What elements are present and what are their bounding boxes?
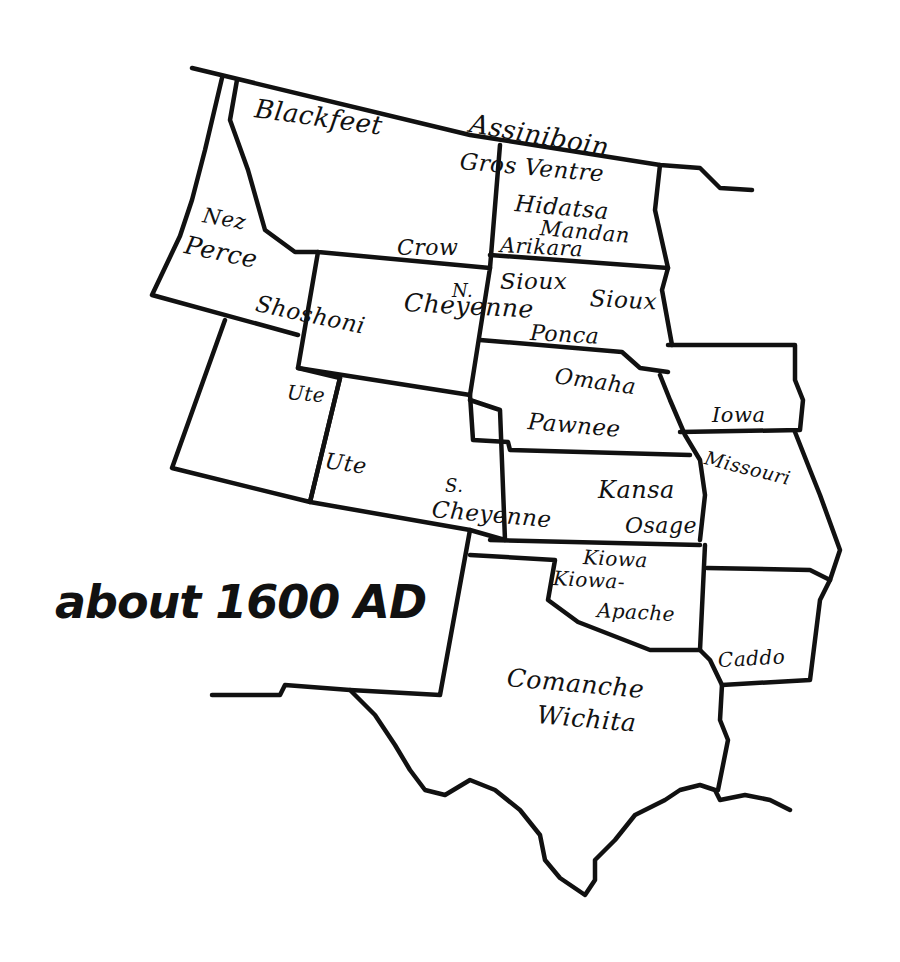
tribe-label-ponca: Ponca [529,322,599,348]
tribe-label-apache: Apache [596,600,675,624]
tribe-label-ute: Ute [286,382,326,405]
border-nd-east [655,165,672,345]
border-texas [212,685,790,895]
tribe-label-crow: Crow [397,237,458,259]
tribe-label-kiowa: Kiowa [582,547,648,570]
map-caption: about 1600 AD [55,575,426,629]
tribe-label-kiowa: Kiowa- [552,568,625,592]
tribe-label-sioux: Sioux [500,270,567,293]
tribe-label-s: S. [445,477,463,495]
border-texas-east [718,685,728,790]
tribe-label-ute: Ute [323,450,368,478]
tribe-label-iowa: Iowa [712,405,765,426]
border-mo-ar [707,568,830,580]
tribe-label-caddo: Caddo [717,646,785,669]
tribe-label-sioux: Sioux [589,287,657,313]
tribe-label-osage: Osage [625,515,697,537]
border-ks-ok [490,540,700,545]
tribe-label-kansa: Kansa [598,478,675,502]
tribe-label-arikara: Arikara [499,235,583,260]
tribe-label-cheyenne: Cheyenne [403,290,534,322]
